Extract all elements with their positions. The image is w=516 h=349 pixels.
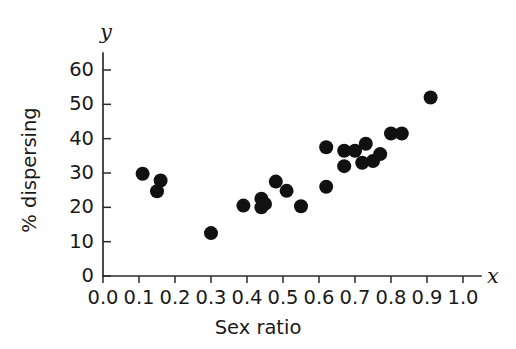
axes <box>103 53 481 276</box>
y-tick-label: 40 <box>0 129 94 149</box>
x-tick-label: 0.0 <box>87 288 118 308</box>
data-point <box>254 200 268 214</box>
scatter-plot-figure: 0.00.10.20.30.40.50.60.70.80.91.0 010203… <box>0 0 516 349</box>
x-variable-symbol: x <box>487 266 499 287</box>
y-tick-label: 20 <box>0 198 94 218</box>
x-tick-label: 0.7 <box>339 288 370 308</box>
y-tick-label: 10 <box>0 232 94 252</box>
data-point <box>424 90 438 104</box>
x-tick-label: 0.1 <box>123 288 154 308</box>
x-tick-label: 0.9 <box>411 288 442 308</box>
data-point <box>154 174 168 188</box>
y-tick-label: 60 <box>0 60 94 80</box>
data-point <box>280 184 294 198</box>
data-point <box>294 199 308 213</box>
y-tick-label: 50 <box>0 95 94 115</box>
data-point <box>136 167 150 181</box>
y-variable-symbol: y <box>100 22 112 43</box>
data-point <box>204 226 218 240</box>
data-points <box>136 90 438 240</box>
x-tick-label: 0.2 <box>159 288 190 308</box>
y-tick-label: 0 <box>0 266 94 286</box>
data-point <box>395 127 409 141</box>
data-point <box>319 180 333 194</box>
y-tick-label: 30 <box>0 163 94 183</box>
data-point <box>359 137 373 151</box>
data-point <box>269 175 283 189</box>
x-tick-label: 0.6 <box>303 288 334 308</box>
x-tick-label: 0.8 <box>375 288 406 308</box>
x-tick-label: 0.5 <box>267 288 298 308</box>
data-point <box>319 140 333 154</box>
x-tick-label: 0.4 <box>231 288 262 308</box>
x-tick-label: 0.3 <box>195 288 226 308</box>
y-axis-title: % dispersing <box>20 107 40 232</box>
data-point <box>236 199 250 213</box>
x-axis-title: Sex ratio <box>215 318 302 338</box>
data-point <box>337 159 351 173</box>
data-point <box>373 147 387 161</box>
x-tick-label: 1.0 <box>447 288 478 308</box>
